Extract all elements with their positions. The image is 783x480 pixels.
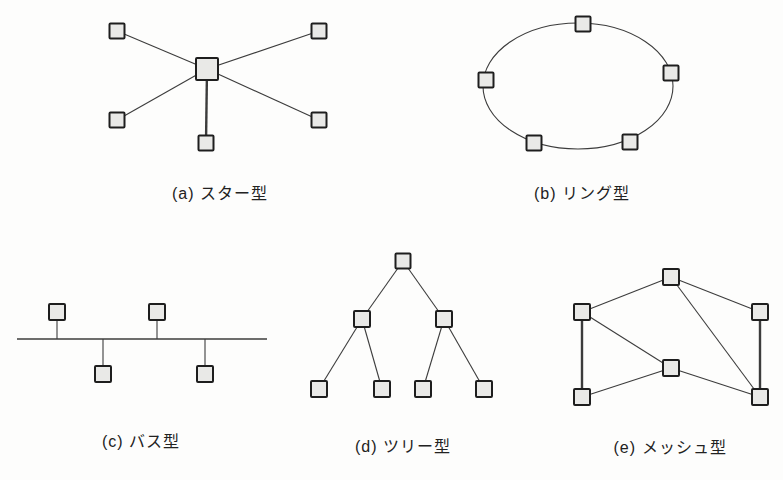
- network-node: [623, 135, 638, 150]
- ring-ellipse: [483, 23, 673, 149]
- network-node: [574, 304, 590, 320]
- network-node: [415, 381, 431, 397]
- network-node: [436, 311, 452, 327]
- edge-line: [207, 69, 319, 120]
- edge-line: [582, 312, 671, 368]
- network-node: [110, 24, 125, 39]
- caption-bus: (c) バス型: [102, 428, 180, 452]
- network-node: [95, 366, 111, 382]
- network-node: [197, 366, 213, 382]
- edge-line: [444, 319, 484, 389]
- network-node: [476, 381, 492, 397]
- edge-line: [207, 31, 319, 69]
- caption-star: (a) スター型: [172, 180, 268, 204]
- network-node: [574, 389, 590, 405]
- network-node: [479, 73, 494, 88]
- network-node: [664, 66, 679, 81]
- caption-tree: (d) ツリー型: [355, 433, 451, 457]
- network-node: [312, 24, 327, 39]
- network-node: [527, 136, 542, 151]
- network-node: [311, 381, 327, 397]
- network-node: [49, 304, 65, 320]
- edge-line: [362, 319, 382, 389]
- network-topology-figure: (a) スター型 (b) リング型 (c) バス型 (d) ツリー型 (e) メ…: [0, 0, 783, 480]
- network-node: [576, 17, 591, 32]
- network-node: [312, 113, 327, 128]
- edge-line: [117, 31, 207, 69]
- network-node: [663, 360, 679, 376]
- network-node: [374, 381, 390, 397]
- topology-diagrams-svg: [0, 0, 783, 480]
- edge-line: [582, 368, 671, 397]
- edge-line: [319, 319, 362, 389]
- edge-line: [582, 277, 671, 312]
- network-node: [354, 311, 370, 327]
- edge-line: [117, 69, 207, 120]
- caption-ring: (b) リング型: [534, 180, 630, 204]
- network-node: [752, 304, 768, 320]
- network-node: [110, 113, 125, 128]
- network-node: [752, 389, 768, 405]
- edge-line: [423, 319, 444, 389]
- edge-line: [671, 368, 760, 397]
- network-node: [396, 254, 411, 269]
- caption-mesh: (e) メッシュ型: [614, 434, 727, 458]
- network-node: [196, 58, 218, 80]
- network-node: [149, 304, 165, 320]
- network-node: [663, 269, 679, 285]
- network-node: [199, 136, 214, 151]
